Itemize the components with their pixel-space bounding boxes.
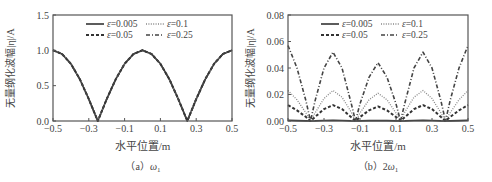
figure: −0.5−0.3−0.10.10.30.50.00.51.01.5水平位置/m无… bbox=[0, 0, 492, 182]
y-tick-label: 0.0 bbox=[37, 116, 50, 127]
series-line-3 bbox=[288, 46, 468, 122]
x-tick-label: 0.3 bbox=[190, 123, 203, 134]
x-tick-label: −0.1 bbox=[351, 123, 369, 134]
x-tick-label: −0.3 bbox=[315, 123, 333, 134]
y-axis-label: 无量纲化波幅|η|/A bbox=[244, 28, 256, 108]
x-tick-label: −0.1 bbox=[116, 123, 134, 134]
plot-frame bbox=[288, 15, 468, 121]
panel-caption: （a）ω1 bbox=[125, 161, 161, 174]
x-axis-label: 水平位置/m bbox=[350, 139, 406, 152]
series-line-1 bbox=[53, 50, 232, 121]
x-tick-label: 0.1 bbox=[154, 123, 167, 134]
panel-b-chart: −0.5−0.3−0.10.10.30.50.000.020.040.060.0… bbox=[244, 10, 474, 175]
legend-label: ε=0.25 bbox=[402, 30, 428, 40]
series-line-3 bbox=[53, 50, 232, 121]
legend-label: ε=0.25 bbox=[167, 30, 193, 40]
x-tick-label: 0.3 bbox=[426, 123, 439, 134]
legend: ε=0.005ε=0.1ε=0.05ε=0.25 bbox=[321, 19, 428, 40]
y-tick-label: 0.02 bbox=[267, 89, 285, 100]
series-line-0 bbox=[53, 50, 232, 121]
y-tick-label: 0.00 bbox=[267, 116, 285, 127]
x-tick-label: −0.3 bbox=[80, 123, 98, 134]
plot-frame bbox=[53, 15, 232, 121]
x-tick-label: 0.5 bbox=[226, 123, 239, 134]
legend: ε=0.005ε=0.1ε=0.05ε=0.25 bbox=[86, 19, 193, 40]
panel-caption: （b）2ω1 bbox=[358, 161, 399, 174]
y-tick-label: 0.06 bbox=[267, 36, 285, 47]
y-tick-label: 0.08 bbox=[267, 10, 285, 21]
y-tick-label: 1.0 bbox=[37, 45, 50, 56]
x-axis-label: 水平位置/m bbox=[115, 139, 171, 152]
y-tick-label: 0.5 bbox=[37, 80, 50, 91]
y-tick-label: 0.04 bbox=[267, 63, 285, 74]
y-tick-label: 1.5 bbox=[37, 10, 50, 21]
legend-label: ε=0.005 bbox=[107, 19, 138, 29]
series-line-2 bbox=[53, 50, 232, 121]
legend-label: ε=0.005 bbox=[342, 19, 373, 29]
panel-a-chart: −0.5−0.3−0.10.10.30.50.00.51.01.5水平位置/m无… bbox=[4, 10, 238, 175]
x-tick-label: 0.1 bbox=[390, 123, 403, 134]
legend-label: ε=0.05 bbox=[107, 30, 133, 40]
y-axis-label: 无量纲化波幅|η|/A bbox=[4, 28, 16, 108]
legend-label: ε=0.1 bbox=[167, 19, 188, 29]
legend-label: ε=0.05 bbox=[342, 30, 368, 40]
legend-label: ε=0.1 bbox=[402, 19, 423, 29]
series-line-2 bbox=[288, 105, 468, 121]
x-tick-label: 0.5 bbox=[462, 123, 475, 134]
